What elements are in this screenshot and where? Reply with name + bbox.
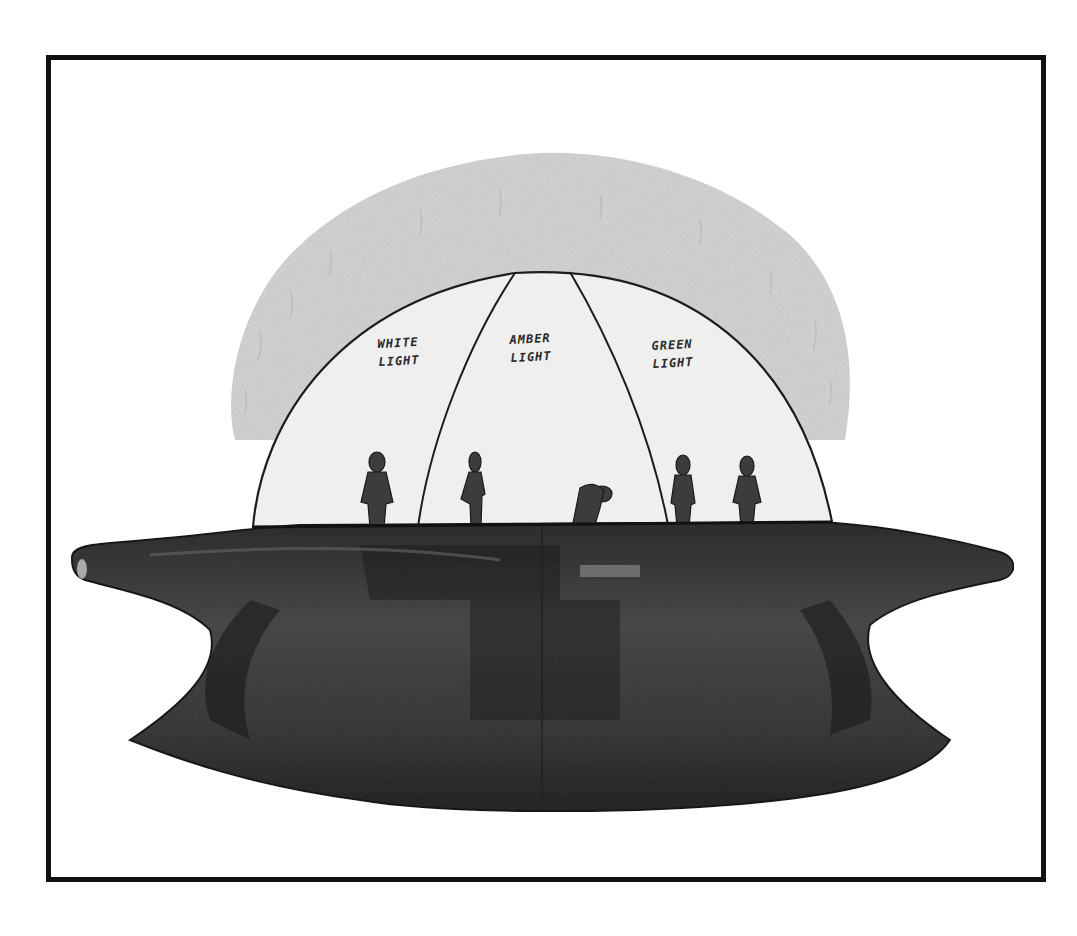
green-light-label: GREEN LIGHT — [651, 335, 694, 373]
ufo-drawing — [0, 0, 1077, 936]
amber-light-line2: LIGHT — [510, 347, 552, 367]
white-light-label: WHITE LIGHT — [377, 333, 420, 371]
green-light-line1: GREEN — [651, 335, 693, 355]
white-light-line2: LIGHT — [378, 351, 420, 371]
green-light-line2: LIGHT — [652, 353, 694, 373]
amber-light-label: AMBER LIGHT — [509, 329, 552, 367]
white-light-line1: WHITE — [377, 333, 419, 353]
amber-light-line1: AMBER — [509, 329, 551, 349]
